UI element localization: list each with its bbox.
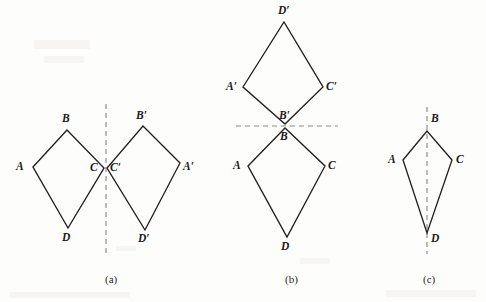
vertex-label-a-a: A	[16, 161, 24, 173]
vertex-label-b-cprime: C′	[326, 81, 337, 93]
kite-abcd-a	[33, 130, 104, 228]
vertex-label-c-b: B	[431, 113, 439, 125]
vertex-label-b-aprime: A′	[226, 81, 237, 93]
vertex-label-b-dprime: D′	[278, 5, 290, 17]
vertex-label-b-d: D	[281, 241, 289, 253]
vertex-label-b-c: C	[328, 160, 336, 172]
vertex-label-b-b: B	[280, 131, 288, 143]
geometry-figure: ABCDA′B′C′D′A′D′C′B′ABCDABCD (a)(b)(c)	[0, 0, 486, 302]
vertex-label-b-bprime: B′	[279, 110, 290, 122]
vertex-label-a-aprime: A′	[183, 161, 194, 173]
vertex-label-a-bprime: B′	[136, 110, 147, 122]
figure-canvas	[0, 0, 486, 302]
panel-caption-a: (a)	[105, 274, 117, 285]
vertex-label-a-c: C	[90, 162, 98, 174]
kite-abcd-prime-a	[107, 126, 180, 230]
mirror-lines-layer	[106, 104, 427, 256]
panel-caption-c: (c)	[423, 274, 435, 285]
vertex-label-a-d: D	[62, 232, 70, 244]
vertex-label-a-cprime: C′	[110, 162, 121, 174]
vertex-label-c-c: C	[456, 154, 464, 166]
panel-caption-b: (b)	[285, 274, 298, 285]
vertex-label-a-b: B	[62, 113, 70, 125]
vertex-label-c-a: A	[388, 154, 396, 166]
vertex-label-c-d: D	[431, 233, 439, 245]
kite-abcd-b	[248, 128, 325, 237]
vertex-label-b-a: A	[233, 160, 241, 172]
kite-shapes-layer	[33, 22, 452, 237]
vertex-label-a-dprime: D′	[138, 233, 150, 245]
